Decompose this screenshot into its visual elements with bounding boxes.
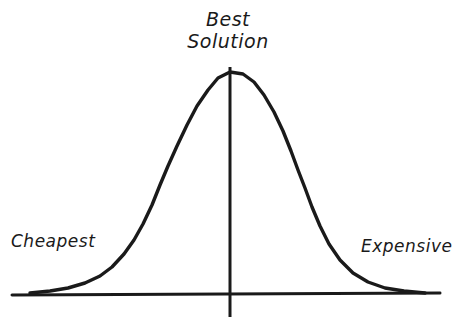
expensive-label: Expensive bbox=[361, 238, 452, 255]
curve-group bbox=[30, 72, 425, 293]
best-solution-label: Best Solution bbox=[0, 8, 456, 52]
cheapest-label: Cheapest bbox=[11, 233, 95, 250]
best-solution-line-2: Solution bbox=[0, 30, 456, 52]
axes-group bbox=[12, 67, 440, 317]
bell-curve-diagram: Best Solution Cheapest Expensive bbox=[0, 0, 456, 327]
horizontal-axis-line bbox=[12, 293, 440, 295]
best-solution-line-1: Best bbox=[0, 8, 456, 30]
bell-curve-line bbox=[30, 72, 425, 293]
